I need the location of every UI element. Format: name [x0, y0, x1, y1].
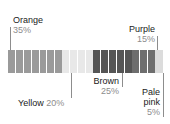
bar-segment-purple[interactable] — [132, 50, 155, 73]
annotation-brown-pct: 25% — [80, 86, 119, 96]
bar-stripe — [55, 50, 62, 73]
annotation-purple-name: Purple — [114, 24, 155, 34]
annotation-purple: Purple 15% — [114, 24, 155, 44]
bar-stripe — [86, 50, 93, 73]
bar-stripe — [117, 50, 125, 73]
leader-line-brown — [122, 73, 123, 87]
stacked-bar-chart: Orange 35% Purple 15% Yellow 20% Brown 2… — [0, 0, 170, 124]
stacked-bar — [8, 50, 163, 73]
bar-stripe — [62, 50, 70, 73]
annotation-brown-name: Brown — [80, 76, 119, 86]
bar-segment-brown[interactable] — [93, 50, 132, 73]
annotation-orange: Orange 35% — [13, 15, 43, 35]
annotation-yellow: Yellow 20% — [18, 98, 64, 108]
bar-stripe — [93, 50, 101, 73]
annotation-pale-pink-name: Pale — [126, 87, 160, 97]
leader-line-purple — [157, 36, 158, 50]
annotation-yellow-name: Yellow — [18, 98, 44, 108]
bar-stripe — [70, 50, 78, 73]
annotation-yellow-pct: 20% — [46, 98, 64, 108]
annotation-pale-pink: Pale pink 5% — [126, 87, 160, 117]
bar-stripe — [16, 50, 24, 73]
bar-stripe — [140, 50, 148, 73]
bar-stripe — [8, 50, 16, 73]
annotation-brown: Brown 25% — [80, 76, 119, 96]
bar-segment-pale-pink[interactable] — [155, 50, 163, 73]
bar-stripe — [125, 50, 132, 73]
bar-stripe — [24, 50, 32, 73]
leader-line-orange — [10, 27, 11, 50]
bar-stripe — [32, 50, 40, 73]
annotation-orange-pct: 35% — [13, 25, 43, 35]
bar-stripe — [109, 50, 117, 73]
bar-segment-orange[interactable] — [8, 50, 62, 73]
bar-stripe — [101, 50, 109, 73]
bar-stripe — [148, 50, 155, 73]
bar-segment-yellow[interactable] — [62, 50, 93, 73]
bar-stripe — [155, 50, 163, 73]
leader-line-pale-pink — [163, 73, 164, 117]
annotation-pale-pink-name2: pink — [126, 97, 160, 107]
bar-stripe — [78, 50, 86, 73]
leader-line-yellow — [71, 73, 72, 98]
bar-stripe — [47, 50, 55, 73]
bar-stripe — [40, 50, 48, 73]
annotation-pale-pink-pct: 5% — [126, 107, 160, 117]
annotation-purple-pct: 15% — [114, 34, 155, 44]
bar-stripe — [132, 50, 140, 73]
annotation-orange-name: Orange — [13, 15, 43, 25]
